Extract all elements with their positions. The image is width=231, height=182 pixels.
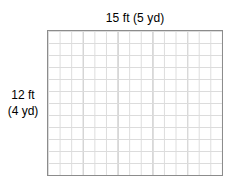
- left-dimension-label-feet: 12 ft: [0, 87, 46, 103]
- top-dimension-label: 15 ft (5 yd): [48, 11, 222, 26]
- left-dimension-label: 12 ft (4 yd): [0, 87, 46, 119]
- grid-lines: [48, 31, 222, 175]
- left-dimension-label-yards: (4 yd): [0, 103, 46, 119]
- area-model-grid: [47, 30, 223, 176]
